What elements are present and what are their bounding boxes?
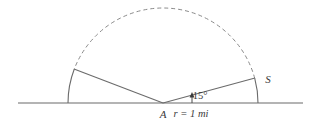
geometry-diagram-canvas: A S 15° r = 1 mi [0,0,321,127]
label-radius: r = 1 mi [174,108,209,119]
label-center-point-a: A [159,108,167,120]
dashed-upper-arc [74,8,254,78]
solid-left-arc [68,69,74,103]
solid-right-arc [255,78,258,103]
geometry-figure: A S 15° r = 1 mi [0,0,321,127]
label-sector-point-s: S [265,73,271,85]
label-angle-15-degrees: 15° [193,90,208,101]
left-ray [74,69,163,103]
right-ray [163,78,255,103]
